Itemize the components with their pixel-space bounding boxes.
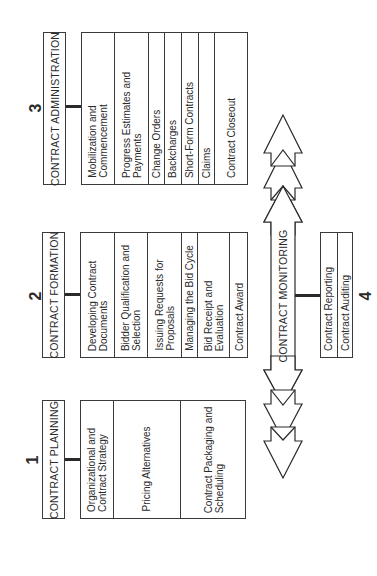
phase-4-number: 4 [356,286,376,306]
phase-4-connector [295,294,320,297]
monitoring-arrow-label: CONTRACT MONITORING [271,222,295,370]
phase-4-item: Contract Auditing [338,233,354,357]
phase-4-items: Contract Reporting Contract Auditing [320,232,353,358]
phase-4-item: Contract Reporting [321,233,338,357]
